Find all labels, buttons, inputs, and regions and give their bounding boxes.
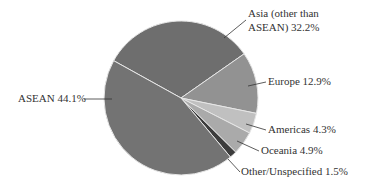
- label-europe: Europe 12.9%: [268, 75, 331, 88]
- label-other: Other/Unspecified 1.5%: [241, 165, 348, 178]
- label-asia-line2: ASEAN) 32.2%: [248, 21, 320, 34]
- pie-chart: Asia (other than ASEAN) 32.2% Europe 12.…: [0, 0, 365, 191]
- label-asia-line1: Asia (other than: [248, 7, 319, 20]
- label-oceania: Oceania 4.9%: [261, 144, 323, 157]
- label-asean: ASEAN 44.1%: [18, 92, 86, 105]
- label-americas: Americas 4.3%: [268, 123, 336, 136]
